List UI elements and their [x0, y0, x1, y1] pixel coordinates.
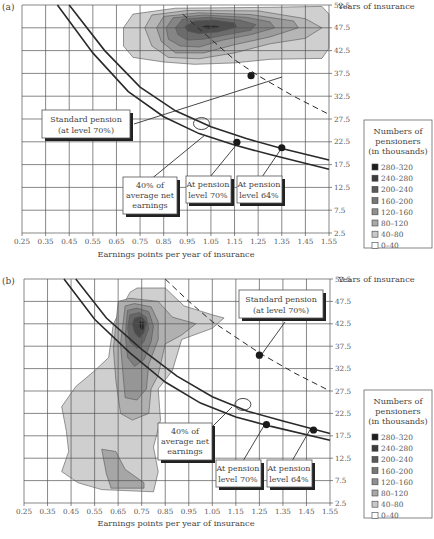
- panel-b-callout-standard: Standard pension (at level 70%): [239, 290, 326, 354]
- legend-swatch: [372, 456, 378, 462]
- legend-item-label: 160–200: [381, 467, 413, 476]
- x-tick-label: 1.15: [228, 507, 244, 516]
- x-tick-label: 1.55: [322, 507, 338, 516]
- legend-title: pensioners: [375, 406, 420, 416]
- legend-swatch: [372, 434, 378, 440]
- callout-b-p70-line2: level 70%: [218, 475, 258, 484]
- y-tick-label: 17.5: [334, 160, 350, 169]
- x-tick-label: 0.95: [181, 507, 197, 516]
- y-tick-label: 12.5: [334, 183, 350, 192]
- callout-b-p64-line2: level 64%: [269, 475, 309, 484]
- callout-standard-line1: Standard pension: [50, 115, 122, 124]
- x-tick-label: 1.25: [250, 237, 266, 246]
- legend-swatch: [372, 445, 378, 451]
- legend-item-label: 240–280: [381, 174, 413, 183]
- callout-forty-line3: earnings: [132, 201, 167, 210]
- callout-forty-line1: 40% of: [136, 181, 165, 190]
- panel-a-x-axis-title: Earnings points per year of insurance: [97, 249, 254, 259]
- panel-b-y-axis-title: Years of insurance: [337, 274, 415, 284]
- legend-title: Numbers of: [374, 126, 424, 136]
- y-tick-label: 42.5: [335, 319, 351, 328]
- legend-swatch: [372, 501, 378, 507]
- panel-a-callout-standard: Standard pension (at level 70%): [42, 77, 282, 141]
- legend-item-label: 160–200: [381, 197, 413, 206]
- legend-item-label: 40–80: [381, 500, 404, 509]
- y-tick-label: 7.5: [335, 476, 347, 485]
- legend-item-label: 0–40: [381, 511, 399, 520]
- legend-title: (in thousands): [368, 416, 427, 426]
- x-tick-label: 0.25: [16, 507, 32, 516]
- callout-b-forty-line2: average net: [161, 437, 210, 446]
- loop-marker: [193, 118, 209, 130]
- x-tick-label: 0.85: [156, 237, 172, 246]
- point-marker: [278, 144, 285, 151]
- legend-swatch: [372, 479, 378, 485]
- panel-a-label: (a): [2, 2, 14, 12]
- x-tick-label: 1.05: [204, 507, 220, 516]
- panel-b-callout-forty: 40% of average net earnings: [158, 407, 232, 463]
- y-tick-label: 7.5: [334, 206, 346, 215]
- point-marker: [233, 139, 240, 146]
- legend-item-label: 80–120: [381, 219, 409, 228]
- x-tick-label: 1.45: [297, 237, 313, 246]
- x-tick-label: 0.65: [108, 237, 124, 246]
- x-tick-label: 1.25: [251, 507, 267, 516]
- y-tick-label: 22.5: [335, 409, 351, 418]
- x-tick-label: 0.55: [87, 507, 103, 516]
- legend-swatch: [372, 164, 378, 170]
- callout-p64-line1: At pension: [236, 180, 280, 189]
- legend-item-label: 40–80: [381, 230, 404, 239]
- x-tick-label: 1.45: [298, 507, 314, 516]
- callout-b-standard-line2: (at level 70%): [253, 306, 309, 315]
- callout-p70-line1: At pension: [185, 180, 229, 189]
- legend-swatch: [372, 242, 378, 248]
- x-tick-label: 0.95: [179, 237, 195, 246]
- y-tick-label: 2.5: [334, 229, 346, 238]
- x-tick-label: 0.75: [132, 237, 148, 246]
- y-tick-label: 12.5: [335, 454, 351, 463]
- legend-item-label: 280–320: [381, 163, 413, 172]
- legend-item-label: 240–280: [381, 444, 413, 453]
- callout-b-standard-line1: Standard pension: [245, 295, 317, 304]
- callout-b-forty-line3: earnings: [167, 447, 202, 456]
- legend-title: (in thousands): [368, 146, 427, 156]
- legend-swatch: [372, 490, 378, 496]
- x-tick-label: 1.55: [321, 237, 337, 246]
- panel-b-markers: [235, 352, 317, 434]
- y-tick-label: 2.5: [335, 499, 347, 508]
- legend-item-label: 120–160: [381, 478, 413, 487]
- legend-item-label: 120–160: [381, 208, 413, 217]
- y-tick-label: 27.5: [334, 115, 350, 124]
- legend-swatch: [372, 186, 378, 192]
- y-tick-label: 32.5: [335, 364, 351, 373]
- x-tick-label: 1.35: [275, 507, 291, 516]
- legend-swatch: [372, 231, 378, 237]
- legend-swatch: [372, 175, 378, 181]
- y-tick-label: 32.5: [334, 92, 350, 101]
- x-tick-label: 0.25: [14, 237, 30, 246]
- legend-item-label: 200–240: [381, 185, 413, 194]
- panel-b-callout-p64: At pension level 64%: [266, 428, 315, 490]
- point-marker: [310, 426, 317, 433]
- x-tick-label: 1.35: [274, 237, 290, 246]
- x-tick-label: 1.05: [203, 237, 219, 246]
- y-tick-label: 17.5: [335, 431, 351, 440]
- x-tick-label: 0.35: [38, 237, 54, 246]
- legend-item-label: 0–40: [381, 241, 399, 250]
- point-marker: [263, 421, 270, 428]
- panel-a-contours: [124, 6, 330, 64]
- panel-a: (a) 0.250.350.450.550.650.750.850.951.05…: [2, 1, 415, 260]
- x-tick-label: 0.85: [157, 507, 173, 516]
- callout-p64-line2: level 64%: [239, 191, 279, 200]
- x-tick-label: 0.55: [85, 237, 101, 246]
- callout-standard-line2: (at level 70%): [58, 126, 114, 135]
- callout-forty-line2: average net: [126, 191, 175, 200]
- callout-b-p70-line1: At pension: [215, 464, 259, 473]
- x-tick-label: 0.45: [63, 507, 79, 516]
- legend-panel-b: Numbers ofpensioners(in thousands)280–32…: [364, 390, 432, 520]
- panel-a-y-axis-title: Years of insurance: [337, 1, 415, 11]
- pension-contour-figure: (a) 0.250.350.450.550.650.750.850.951.05…: [0, 0, 434, 539]
- legend-swatch: [372, 512, 378, 518]
- y-tick-label: 42.5: [334, 46, 350, 55]
- panel-b-label: (b): [2, 276, 15, 286]
